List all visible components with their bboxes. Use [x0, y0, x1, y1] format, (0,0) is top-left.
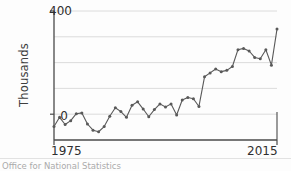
x-tick-label-1975: 1975 [51, 144, 82, 158]
gridlines [54, 11, 277, 114]
x-tick-label-2015: 2015 [247, 144, 278, 158]
footer-divider [0, 158, 291, 159]
source-attribution: Office for National Statistics [2, 161, 121, 171]
data-line-net-migration [54, 29, 277, 132]
chart-figure: Thousands 400 0 1975 2015 Office for Nat… [0, 0, 291, 171]
y-axis-title: Thousands [17, 20, 31, 130]
data-markers [53, 28, 279, 134]
axis-ticks [50, 11, 277, 145]
axis-lines [54, 11, 277, 140]
y-tick-label-0: 0 [60, 109, 68, 123]
y-tick-label-400: 400 [49, 4, 72, 18]
